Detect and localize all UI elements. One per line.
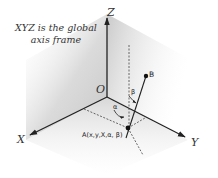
beta-label: β (131, 88, 135, 96)
y-axis-label: Y (191, 136, 198, 149)
point-a-label: A(x,y,X,α, β) (82, 131, 122, 139)
caption-line-2: axis frame (14, 34, 98, 46)
x-axis-label: X (17, 133, 25, 146)
point-a (126, 126, 131, 131)
caption-line-1: XYZ is the global (14, 22, 98, 34)
alpha-label: α (113, 103, 117, 111)
axis-frame-diagram: XYZ is the global axis frame Z X Y O A(x… (0, 0, 218, 178)
caption: XYZ is the global axis frame (14, 22, 98, 46)
point-b-label: B (149, 70, 154, 79)
origin-label: O (96, 83, 105, 96)
z-axis-label: Z (107, 6, 115, 19)
point-b (144, 74, 148, 78)
